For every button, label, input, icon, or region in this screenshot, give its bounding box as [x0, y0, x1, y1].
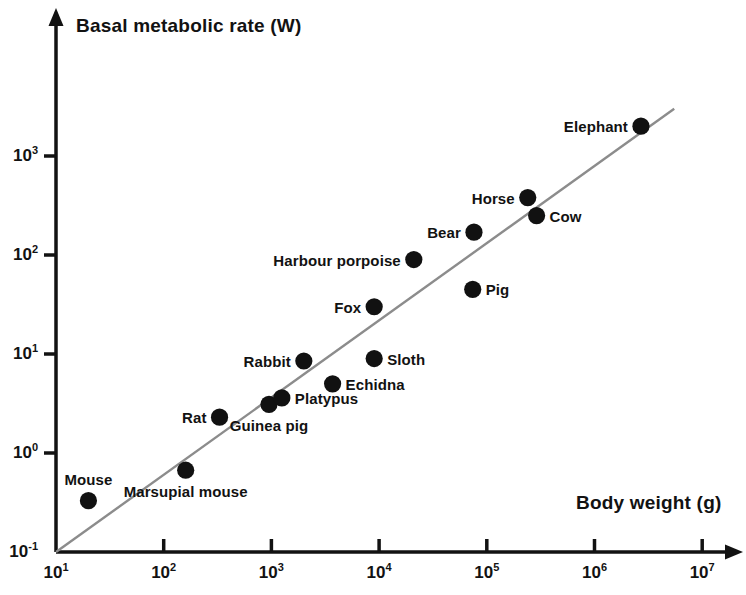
y-tick-label-10e3: 103 — [13, 146, 38, 166]
data-points — [80, 118, 650, 510]
data-point — [295, 352, 312, 369]
x-tick-label-10e6: 106 — [582, 563, 607, 583]
x-tick-label-10e7: 107 — [690, 563, 715, 583]
x-tick-label-10e5: 105 — [474, 563, 499, 583]
point-label-elephant: Elephant — [564, 118, 628, 135]
point-label-marsupial-mouse: Marsupial mouse — [124, 483, 248, 500]
data-point — [366, 350, 383, 367]
x-axis-title: Body weight (g) — [576, 492, 721, 514]
x-tick-label-10e2: 102 — [151, 563, 176, 583]
point-label-cow: Cow — [550, 207, 582, 224]
point-label-mouse: Mouse — [64, 471, 112, 488]
point-label-rabbit: Rabbit — [244, 352, 291, 369]
point-label-harbour-porpoise: Harbour porpoise — [273, 251, 400, 268]
point-label-horse: Horse — [472, 189, 515, 206]
data-point — [366, 298, 383, 315]
y-tick-label-10e0: 100 — [13, 443, 38, 463]
data-point — [632, 118, 649, 135]
y-tick-label-10e1: 101 — [13, 344, 38, 364]
data-point — [528, 207, 545, 224]
y-axis-title: Basal metabolic rate (W) — [76, 15, 301, 37]
chart-figure: Basal metabolic rate (W) Body weight (g)… — [0, 0, 746, 595]
y-tick-label-10e2: 102 — [13, 245, 38, 265]
point-label-bear: Bear — [427, 224, 461, 241]
axes — [44, 8, 743, 560]
data-point — [177, 462, 194, 479]
x-tick-label-10e3: 103 — [259, 563, 284, 583]
data-point — [405, 251, 422, 268]
data-point — [519, 189, 536, 206]
data-point — [211, 409, 228, 426]
data-point — [465, 224, 482, 241]
point-label-guinea-pig: Guinea pig — [230, 417, 309, 434]
point-label-echidna: Echidna — [346, 375, 405, 392]
x-tick-label-10e1: 101 — [43, 563, 68, 583]
point-label-pig: Pig — [486, 281, 510, 298]
point-label-rat: Rat — [182, 409, 206, 426]
data-point — [273, 389, 290, 406]
x-tick-label-10e4: 104 — [367, 563, 392, 583]
point-label-sloth: Sloth — [387, 350, 425, 367]
point-label-fox: Fox — [334, 298, 361, 315]
y-tick-label-10e-1: 10-1 — [9, 542, 38, 562]
data-point — [80, 492, 97, 509]
data-point — [464, 281, 481, 298]
